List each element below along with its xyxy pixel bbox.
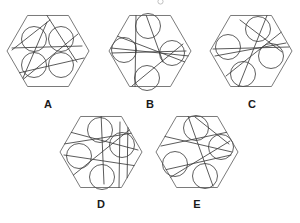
circle-d-4 (90, 165, 115, 190)
cropped-glyph-top-icon (158, 0, 163, 4)
chord-b-3 (112, 51, 186, 53)
hexagon-outline-d (60, 116, 142, 187)
chord-c-4 (226, 32, 281, 76)
chord-d-4 (64, 155, 134, 166)
hexagon-outline-e (156, 116, 238, 187)
chord-b-5 (118, 36, 185, 62)
panel-label-d: D (97, 198, 105, 210)
cropped-glyph-mark (158, 0, 163, 4)
figure-container: ABCDE (0, 0, 300, 223)
chord-d-5 (73, 130, 129, 175)
hexagon-panel-b[interactable]: B (109, 14, 191, 110)
chord-d-7 (127, 128, 128, 178)
chord-a-6 (12, 46, 82, 48)
circle-e-4 (193, 164, 218, 189)
panel-label-a: A (44, 98, 52, 110)
hexagon-panel-c[interactable]: C (210, 15, 292, 109)
panels-group: ABCDE (7, 14, 292, 210)
chord-d-6 (119, 122, 120, 188)
panel-label-e: E (193, 198, 200, 210)
hexagon-panel-a[interactable]: A (7, 15, 89, 109)
circle-c-4 (231, 62, 256, 87)
hexagon-outline-c (210, 15, 292, 86)
hexagon-outline-a (7, 15, 89, 86)
hexagon-figure-svg: ABCDE (0, 0, 300, 223)
hexagon-panel-e[interactable]: E (156, 116, 238, 210)
hexagon-panel-d[interactable]: D (60, 116, 142, 209)
chord-e-4 (166, 155, 231, 170)
chord-c-3 (215, 43, 286, 56)
panel-label-c: C (248, 98, 256, 110)
circle-e-3 (163, 152, 188, 177)
chord-a-3 (20, 58, 84, 73)
circle-b-1 (136, 14, 161, 39)
panel-label-b: B (146, 98, 154, 110)
circle-d-1 (88, 118, 113, 143)
circle-c-2 (216, 35, 241, 60)
